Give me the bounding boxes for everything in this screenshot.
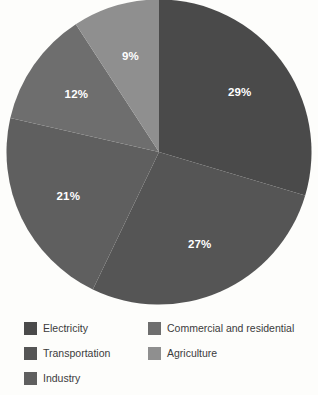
legend-color-swatch bbox=[148, 322, 161, 335]
pie-slice-label: 12% bbox=[65, 88, 89, 100]
legend-item[interactable]: Electricity bbox=[24, 316, 110, 341]
pie-chart-figure: 29%27%21%12%9% ElectricityTransportation… bbox=[0, 0, 318, 395]
pie-chart-svg: 29%27%21%12%9% bbox=[0, 0, 318, 312]
legend-color-swatch bbox=[148, 347, 161, 360]
pie-slice-label: 21% bbox=[56, 190, 80, 202]
pie-slice-group bbox=[6, 0, 311, 305]
legend-column-right: Commercial and residentialAgriculture bbox=[148, 316, 294, 366]
pie-slice-label: 9% bbox=[122, 50, 139, 62]
chart-legend: ElectricityTransportationIndustry Commer… bbox=[0, 316, 318, 395]
legend-item-label: Transportation bbox=[43, 347, 110, 360]
pie-chart-plot-area: 29%27%21%12%9% bbox=[0, 0, 318, 312]
legend-item[interactable]: Agriculture bbox=[148, 341, 294, 366]
legend-item[interactable]: Commercial and residential bbox=[148, 316, 294, 341]
legend-item-label: Industry bbox=[43, 372, 80, 385]
legend-item-label: Commercial and residential bbox=[167, 322, 294, 335]
legend-item-label: Electricity bbox=[43, 322, 88, 335]
legend-column-left: ElectricityTransportationIndustry bbox=[24, 316, 110, 391]
legend-item[interactable]: Transportation bbox=[24, 341, 110, 366]
legend-color-swatch bbox=[24, 347, 37, 360]
legend-color-swatch bbox=[24, 322, 37, 335]
legend-item[interactable]: Industry bbox=[24, 366, 110, 391]
pie-slice-label: 29% bbox=[228, 86, 252, 98]
legend-color-swatch bbox=[24, 372, 37, 385]
pie-slice-label: 27% bbox=[188, 238, 212, 250]
legend-item-label: Agriculture bbox=[167, 347, 217, 360]
